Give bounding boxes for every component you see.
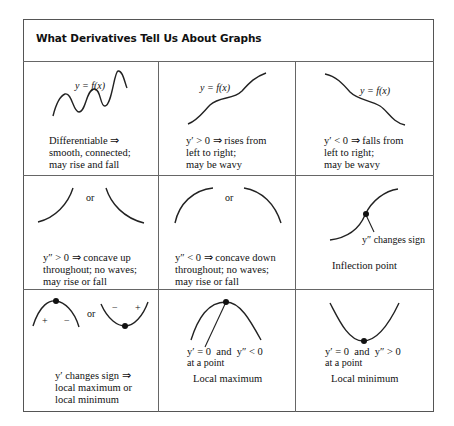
local-min-curve	[0, 0, 454, 426]
condition-line: at a point	[325, 357, 362, 370]
min-point-marker	[361, 338, 367, 344]
caption-line: Local minimum	[331, 373, 398, 386]
